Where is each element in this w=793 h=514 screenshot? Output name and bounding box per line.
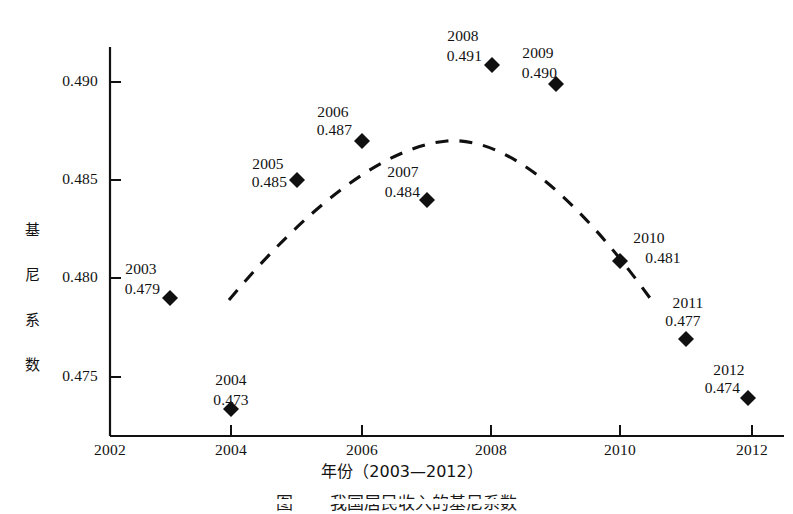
point-year-label-2009: 2009 [505,44,571,61]
x-axis-ticks [110,425,752,436]
data-point-2010[interactable] [612,253,628,269]
data-point-2011[interactable] [678,331,694,347]
point-value-label-2003: 0.479 [94,280,160,297]
data-point-2003[interactable] [162,290,178,306]
y-tick-label-1: 0.485 [34,170,98,187]
x-tick-label-5: 2012 [722,441,782,458]
x-tick-label-1: 2004 [201,441,261,458]
x-tick-label-2: 2006 [332,441,392,458]
point-value-label-2010: 0.481 [630,249,696,266]
data-point-2007[interactable] [419,192,435,208]
point-year-label-2005: 2005 [235,155,301,172]
point-value-label-2008: 0.491 [416,47,482,64]
figure-caption: 图 我国居民收入的基尼系数 [0,489,793,514]
point-value-label-2005: 0.485 [221,173,287,190]
y-axis-title-char-3: 数 [22,358,42,373]
point-value-label-2009: 0.490 [491,64,557,81]
x-tick-label-0: 2002 [80,441,140,458]
point-year-label-2011: 2011 [655,294,721,311]
y-axis-title-char-0: 基 [22,223,42,238]
y-tick-label-2: 0.480 [34,268,98,285]
data-point-2006[interactable] [354,133,370,149]
x-tick-label-4: 2010 [590,441,650,458]
point-year-label-2004: 2004 [198,371,264,388]
point-year-label-2008: 2008 [430,27,496,44]
point-year-label-2007: 2007 [370,163,436,180]
y-axis-title: 基 尼 系 数 [22,193,42,403]
y-tick-label-0: 0.490 [34,72,98,89]
y-tick-label-3: 0.475 [34,367,98,384]
data-point-2012[interactable] [740,390,756,406]
y-axis-title-char-1: 尼 [22,268,42,283]
point-year-label-2010: 2010 [616,229,682,246]
point-value-label-2007: 0.484 [354,183,420,200]
point-value-label-2006: 0.487 [286,121,352,138]
point-value-label-2004: 0.473 [198,391,264,408]
x-axis-title: 年份（2003—2012） [292,463,512,481]
point-year-label-2012: 2012 [696,361,762,378]
data-point-2005[interactable] [289,172,305,188]
point-value-label-2011: 0.477 [650,312,716,329]
point-value-label-2012: 0.474 [674,379,740,396]
y-axis-title-char-2: 系 [22,313,42,328]
y-axis-ticks [110,82,121,377]
point-year-label-2006: 2006 [300,103,366,120]
x-tick-label-3: 2008 [461,441,521,458]
point-year-label-2003: 2003 [108,260,174,277]
